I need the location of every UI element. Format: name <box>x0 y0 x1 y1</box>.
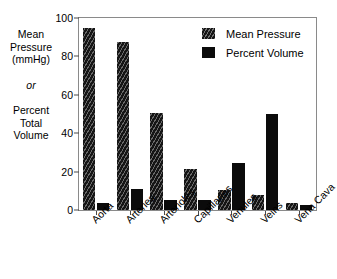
y-caption-or: or <box>2 79 60 92</box>
y-tick-label: 80 <box>61 50 73 62</box>
y-tick-mark <box>74 56 79 57</box>
bar-percent-volume-veins <box>266 114 279 210</box>
y-tick-mark <box>74 133 79 134</box>
y-caption-line-5: Total <box>2 117 60 130</box>
bar-mean-pressure-aorta <box>83 28 96 210</box>
legend-item: Percent Volume <box>202 43 304 62</box>
plot-frame: 020406080100 Mean PressurePercent Volume <box>78 17 317 211</box>
y-caption-line-1: Mean <box>2 28 60 41</box>
legend-swatch-icon <box>202 28 215 39</box>
chart-legend: Mean PressurePercent Volume <box>202 24 304 62</box>
y-caption-line-2: Pressure <box>2 41 60 54</box>
y-axis-caption: Mean Pressure (mmHg) or Percent Total Vo… <box>2 28 60 142</box>
legend-item: Mean Pressure <box>202 24 304 43</box>
y-caption-line-4: Percent <box>2 104 60 117</box>
bar-mean-pressure-arteries <box>117 42 130 210</box>
bar-mean-pressure-vena-cava <box>286 203 299 210</box>
y-caption-line-6: Volume <box>2 129 60 142</box>
y-tick-mark <box>74 18 79 19</box>
legend-swatch-icon <box>202 47 215 58</box>
y-tick-mark <box>74 171 79 172</box>
y-caption-line-3: (mmHg) <box>2 53 60 66</box>
x-axis-labels: AortaArteriesArteriolesCapillariesVenule… <box>78 211 317 279</box>
legend-label: Mean Pressure <box>226 28 301 40</box>
legend-label: Percent Volume <box>226 47 304 59</box>
y-tick-mark <box>74 94 79 95</box>
y-tick-label: 60 <box>61 89 73 101</box>
y-tick-label: 0 <box>67 204 73 216</box>
y-tick-label: 40 <box>61 127 73 139</box>
y-tick-label: 100 <box>55 12 73 24</box>
y-tick-label: 20 <box>61 166 73 178</box>
